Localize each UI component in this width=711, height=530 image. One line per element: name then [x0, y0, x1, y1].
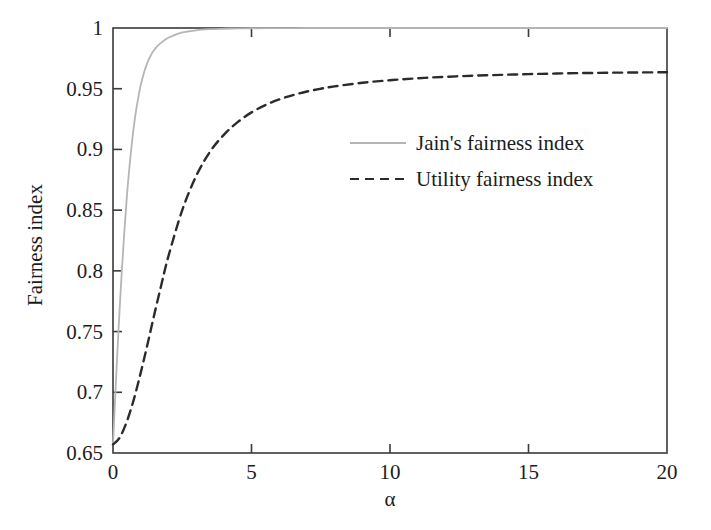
legend-label-jains-fairness-index: Jain's fairness index	[416, 131, 585, 155]
fairness-index-chart-figure: 0.650.70.750.80.850.90.951 05101520 Fair…	[0, 0, 711, 530]
y-tick-label: 0.9	[77, 137, 103, 161]
x-axis-title: α	[384, 487, 395, 511]
chart-canvas: 0.650.70.750.80.850.90.951 05101520 Fair…	[0, 0, 711, 530]
y-tick-label: 0.65	[66, 441, 103, 465]
y-tick-label: 0.7	[77, 380, 103, 404]
x-tick-label: 5	[246, 460, 257, 484]
x-tick-label: 15	[518, 460, 539, 484]
y-tick-label: 0.85	[66, 198, 103, 222]
x-tick-label: 10	[380, 460, 401, 484]
y-tick-label: 0.95	[66, 77, 103, 101]
legend-label-utility-fairness-index: Utility fairness index	[416, 167, 594, 191]
x-tick-label: 20	[657, 460, 678, 484]
y-tick-label: 0.8	[77, 259, 103, 283]
y-tick-label: 1	[93, 16, 104, 40]
chart-background	[0, 0, 711, 530]
y-tick-label: 0.75	[66, 320, 103, 344]
x-tick-label: 0	[108, 460, 119, 484]
y-axis-title: Fairness index	[23, 184, 47, 306]
